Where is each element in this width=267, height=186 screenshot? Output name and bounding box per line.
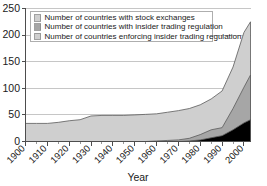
- y-tick-label-250: 250: [2, 2, 20, 14]
- y-axis-ticks: [22, 9, 26, 142]
- legend-swatch-1: [35, 24, 41, 30]
- x-tick-label-1980: 1980: [179, 143, 202, 166]
- area-chart: 1900191019201930194019501960197019801990…: [0, 0, 267, 186]
- chart-figure: 1900191019201930194019501960197019801990…: [0, 0, 267, 186]
- x-axis-labels: 1900191019201930194019501960197019801990…: [4, 143, 245, 166]
- x-tick-label-2000: 2000: [223, 143, 246, 166]
- x-tick-label-1990: 1990: [201, 143, 224, 166]
- x-tick-label-1950: 1950: [113, 143, 136, 166]
- legend: Number of countries with stock exchanges…: [31, 12, 242, 42]
- y-tick-label-50: 50: [8, 108, 20, 120]
- legend-swatch-0: [35, 15, 41, 21]
- y-tick-label-200: 200: [2, 28, 20, 40]
- y-tick-label-0: 0: [14, 135, 20, 147]
- x-tick-label-1910: 1910: [26, 143, 49, 166]
- x-tick-label-1930: 1930: [70, 143, 93, 166]
- x-tick-label-1970: 1970: [157, 143, 180, 166]
- x-tick-label-1920: 1920: [48, 143, 71, 166]
- x-tick-label-1960: 1960: [135, 143, 158, 166]
- legend-label-1: Number of countries with insider trading…: [45, 22, 223, 31]
- x-axis-ticks: [26, 142, 244, 146]
- legend-swatch-2: [35, 33, 41, 39]
- y-axis-labels: 050100150200250: [2, 2, 20, 147]
- y-tick-label-100: 100: [2, 82, 20, 94]
- y-tick-label-150: 150: [2, 55, 20, 67]
- legend-label-0: Number of countries with stock exchanges: [45, 13, 195, 22]
- legend-label-2: Number of countries enforcing insider tr…: [45, 32, 242, 41]
- x-axis-title: Year: [127, 171, 149, 183]
- x-tick-label-1940: 1940: [92, 143, 115, 166]
